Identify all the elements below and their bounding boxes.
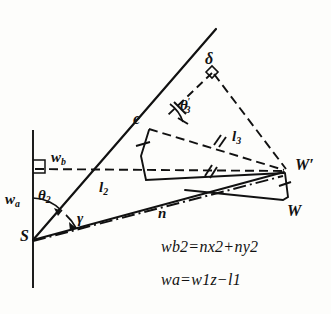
point-label-e: e bbox=[133, 111, 140, 127]
segment-label-l3: l3 bbox=[232, 129, 241, 146]
right-angle-marker-axis-icon bbox=[33, 160, 45, 173]
point-label-W: W bbox=[287, 203, 301, 219]
segment-label-l2: l2 bbox=[99, 180, 108, 197]
segment-label-wa: wa bbox=[5, 192, 20, 209]
point-label-delta: δ bbox=[205, 51, 213, 67]
segment-label-n: n bbox=[158, 206, 166, 221]
segment-delta-to-Wprime-dashed-line bbox=[214, 74, 286, 169]
single-tick-inner-edge-icon bbox=[136, 142, 150, 146]
angle-label-theta3-prime: θ′3 bbox=[180, 98, 190, 115]
equation-wb-squared: wb2=nx2+ny2 bbox=[161, 238, 258, 256]
congruence-mark-l3-icon bbox=[214, 135, 226, 147]
point-label-S: S bbox=[20, 228, 29, 244]
angle-label-gamma: γ bbox=[77, 211, 83, 226]
geometry-figure: S e δ W′ W wb wa l2 l3 n θ2 γ θ′3 wb2=nx… bbox=[0, 0, 331, 314]
segment-label-wb: wb bbox=[51, 150, 66, 167]
angle-tick-theta3prime-icon bbox=[178, 118, 188, 124]
segment-wb-line bbox=[35, 169, 283, 171]
equation-wa: wa=w1z−l1 bbox=[161, 271, 241, 289]
point-label-W-prime: W′ bbox=[295, 157, 314, 173]
segment-l3-dashed-line bbox=[149, 129, 284, 170]
diagram-canvas bbox=[0, 0, 331, 314]
single-tick-Wprime-W-icon bbox=[279, 182, 291, 186]
angle-label-theta2: θ2 bbox=[38, 188, 51, 205]
